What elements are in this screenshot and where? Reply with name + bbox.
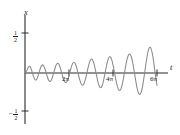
plot-canvas [0,0,180,135]
y-axis-label: x [24,8,28,17]
fraction-numerator: 1 [13,30,18,37]
fraction-numerator: 1 [13,108,18,115]
waveform-curve [25,47,157,94]
x-tick-label-6pi: 6π [150,76,157,83]
y-tick-label-positive-half: 1 2 [13,27,18,43]
plot-figure: x t 1 2 − 1 2 2π 4π 6π [0,0,180,135]
fraction-one-half-negative: 1 2 [13,108,18,122]
x-axis-label: t [170,63,172,72]
x-tick-label-2pi: 2π [62,76,69,83]
fraction-one-half: 1 2 [13,30,18,44]
x-tick-label-4pi: 4π [106,76,113,83]
fraction-denominator: 2 [13,115,18,121]
y-tick-label-negative-half: − 1 2 [9,105,18,121]
fraction-denominator: 2 [13,37,18,43]
